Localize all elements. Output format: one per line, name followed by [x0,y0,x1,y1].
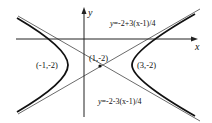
x-axis-label: x [194,41,200,52]
y-axis-label: y [87,7,93,18]
asymptote-falling-label: y=-2-3(x-1)/4 [97,97,142,106]
asymptote-rising-label: y=-2+3(x-1)/4 [109,19,155,28]
center-point [98,64,101,67]
right-vertex-label: (3,-2) [137,60,156,70]
hyperbola-diagram: y x (1,-2) (-1,-2) (3,-2) y=-2+3(x-1)/4 … [0,0,212,123]
center-label: (1,-2) [89,53,108,63]
left-vertex-label: (-1,-2) [36,60,58,70]
y-axis-arrow-icon [82,7,87,14]
